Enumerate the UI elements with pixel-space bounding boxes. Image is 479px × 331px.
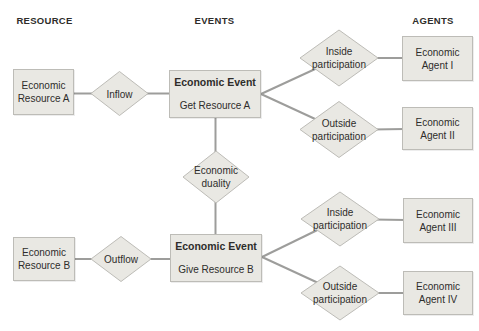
inflow-diamond-shape (91, 72, 148, 116)
node-economic-agent-3: Economic Agent III (403, 198, 473, 243)
node-economic-agent-4: Economic Agent IV (403, 271, 473, 315)
economic-duality-diamond-shape (183, 151, 249, 203)
column-header-agents: AGENTS (412, 15, 453, 26)
node-economic-resource-a: Economic Resource A (13, 69, 74, 115)
outside-participation-top-diamond-shape (300, 102, 378, 158)
node-economic-agent-2: Economic Agent II (402, 107, 473, 150)
inside-participation-bottom-diamond-shape (301, 192, 379, 246)
node-economic-resource-b: Economic Resource B (13, 237, 75, 281)
rea-model-diagram: RESOURCE EVENTS AGENTS Economic Resource… (0, 0, 479, 331)
event-give-subtitle: Give Resource B (178, 263, 254, 276)
event-get-title: Economic Event (174, 76, 256, 89)
node-economic-agent-1: Economic Agent I (402, 36, 473, 81)
outside-participation-bottom-diamond-shape (301, 266, 379, 320)
node-economic-event-give: Economic Event Give Resource B (170, 234, 262, 282)
event-give-title: Economic Event (175, 240, 257, 253)
event-get-subtitle: Get Resource A (180, 99, 251, 112)
outflow-diamond-shape (91, 237, 151, 282)
node-economic-event-get: Economic Event Get Resource A (169, 70, 261, 118)
inside-participation-top-diamond-shape (300, 30, 378, 86)
column-header-events: EVENTS (195, 15, 235, 26)
column-header-resource: RESOURCE (16, 15, 72, 26)
